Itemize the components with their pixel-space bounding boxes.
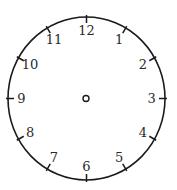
- hour-label-2: 2: [139, 57, 147, 72]
- hour-label-7: 7: [50, 150, 58, 165]
- hour-label-5: 5: [115, 150, 123, 165]
- center-pivot-icon: [83, 96, 89, 102]
- hour-label-1: 1: [115, 32, 123, 47]
- hour-label-10: 10: [22, 57, 39, 72]
- hour-label-9: 9: [17, 91, 25, 106]
- hour-label-12: 12: [78, 23, 95, 38]
- hour-numbers: 12 1 2 3 4 5 6 7 8 9 10 11: [17, 23, 156, 173]
- clock-rim: [8, 17, 165, 180]
- hour-label-3: 3: [148, 91, 156, 106]
- hour-label-4: 4: [139, 125, 147, 140]
- hour-label-11: 11: [46, 32, 63, 47]
- clock-face: 12 1 2 3 4 5 6 7 8 9 10 11: [0, 0, 177, 190]
- hour-label-8: 8: [26, 125, 34, 140]
- hour-ticks: [6, 15, 167, 182]
- hour-label-6: 6: [82, 159, 90, 174]
